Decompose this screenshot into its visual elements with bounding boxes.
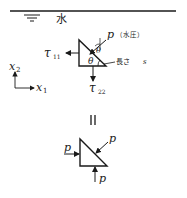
hydrostatic-stress-diagram: 水 θ θ p （水圧） 長さ s τ 11 τ 22 x 2 x 1 bbox=[0, 0, 187, 198]
length-label: 長さ bbox=[116, 58, 130, 66]
tau11-subscript: 11 bbox=[53, 53, 61, 60]
tau11-symbol: τ bbox=[44, 46, 51, 60]
theta-lower-label: θ bbox=[88, 56, 94, 66]
water-label: 水 bbox=[56, 13, 67, 26]
water-surface: 水 bbox=[10, 11, 176, 26]
length-var: s bbox=[143, 58, 147, 66]
p-bottom-label: p bbox=[99, 172, 106, 185]
p-hyp-arrow bbox=[96, 142, 108, 153]
bottom-triangle-element: p p p bbox=[64, 132, 116, 185]
p-left-label: p bbox=[64, 141, 71, 154]
pressure-note: （水圧） bbox=[116, 30, 144, 39]
axis-x2-symbol: x bbox=[9, 60, 16, 73]
pressure-label: p bbox=[107, 28, 114, 41]
coordinate-axes: x 2 x 1 bbox=[9, 60, 47, 95]
axis-x1-subscript: 1 bbox=[43, 87, 47, 95]
tau22-subscript: 22 bbox=[98, 88, 106, 95]
axis-x2-subscript: 2 bbox=[16, 66, 20, 74]
theta-upper-label: θ bbox=[96, 46, 101, 55]
equivalence-sign bbox=[91, 115, 95, 125]
p-hyp-label: p bbox=[109, 132, 116, 145]
length-pointer bbox=[104, 62, 115, 64]
water-level-symbol bbox=[24, 15, 40, 21]
top-triangle-element: θ θ p （水圧） 長さ s τ 11 τ 22 bbox=[44, 28, 147, 95]
tau22-symbol: τ bbox=[89, 81, 96, 95]
axis-x1-symbol: x bbox=[36, 81, 43, 94]
